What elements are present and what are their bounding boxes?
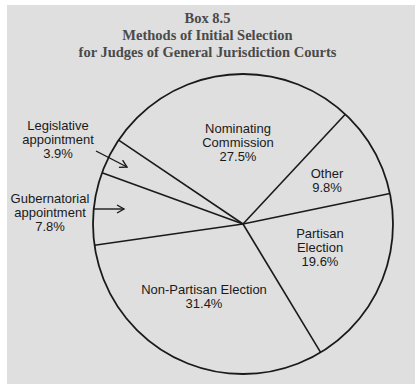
slice-divider bbox=[102, 173, 243, 224]
slice-divider bbox=[243, 194, 390, 224]
slice-divider bbox=[95, 224, 244, 245]
slice-label-legislative-appointment: Legislativeappointment3.9% bbox=[22, 118, 94, 161]
slice-label-other: Other9.8% bbox=[311, 166, 344, 195]
slice-labels: Other9.8%PartisanElection19.6%Non-Partis… bbox=[11, 118, 344, 311]
slice-label-gubernatorial-appointment: Gubernatorialappointment7.8% bbox=[11, 191, 90, 234]
slice-label-nominating-commission: NominatingCommission27.5% bbox=[202, 121, 274, 164]
slice-label-non-partisan-election: Non-Partisan Election31.4% bbox=[141, 282, 267, 311]
slice-label-partisan-election: PartisanElection19.6% bbox=[296, 226, 344, 269]
pie-chart: Other9.8%PartisanElection19.6%Non-Partis… bbox=[0, 0, 415, 384]
